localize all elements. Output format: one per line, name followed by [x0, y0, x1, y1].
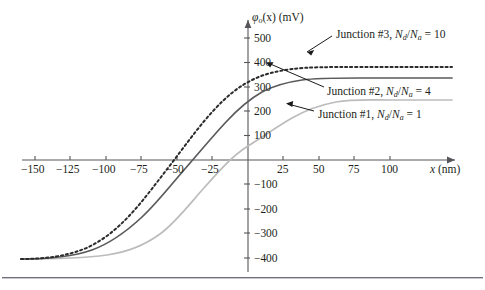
- x-axis-ticks: [35, 156, 390, 160]
- x-axis-unit: (nm): [438, 163, 460, 175]
- annotation-junction-2-nd: N: [386, 85, 394, 97]
- x-tick-label-100: 100: [381, 163, 398, 175]
- figure-container: −150 −125 −100 −75 −50 −25 25 50 75 100 …: [0, 0, 485, 290]
- x-tick-label-25: 25: [277, 163, 288, 175]
- annotation-junction-2-value: = 4: [413, 85, 431, 97]
- annotation-junction-2-na: N: [401, 85, 409, 97]
- annotation-junction-1-value: = 1: [404, 108, 422, 120]
- y-tick-label--400: −400: [254, 252, 277, 264]
- annotation-leaders: [266, 36, 332, 111]
- leader-junction-3: [307, 36, 332, 52]
- annotation-junction-1-na: N: [392, 108, 400, 120]
- x-tick-label-75: 75: [348, 163, 359, 175]
- y-tick-label-500: 500: [254, 32, 271, 44]
- arrowhead-junction-1: [286, 101, 293, 107]
- annotation-junction-1-prefix: Junction #1,: [318, 108, 377, 120]
- annotation-junction-3: Junction #3, Nd/Na = 10: [336, 28, 445, 42]
- x-tick-label--150: −150: [21, 163, 44, 175]
- annotation-junction-3-value: = 10: [422, 28, 446, 40]
- x-tick-label--25: −25: [201, 163, 219, 175]
- y-axis-arrowhead: [245, 20, 252, 28]
- axis-lines: [22, 20, 455, 272]
- annotation-junction-2-prefix: Junction #2,: [327, 85, 386, 97]
- annotation-junction-1-nd: N: [377, 108, 385, 120]
- y-tick-label-100: 100: [254, 129, 271, 141]
- y-tick-label--100: −100: [254, 178, 277, 190]
- x-axis-x-symbol: x: [430, 163, 435, 175]
- x-tick-label--125: −125: [56, 163, 79, 175]
- annotation-junction-3-prefix: Junction #3,: [336, 28, 395, 40]
- annotation-junction-1: Junction #1, Nd/Na = 1: [318, 108, 422, 122]
- y-axis-title: φo(x) (mV): [252, 11, 304, 25]
- chart-canvas: [0, 0, 485, 290]
- y-tick-label--200: −200: [254, 203, 277, 215]
- x-tick-label--100: −100: [92, 163, 115, 175]
- y-tick-label-200: 200: [254, 105, 271, 117]
- x-tick-label-50: 50: [313, 163, 324, 175]
- series-junction-1-curve: [21, 100, 452, 259]
- y-tick-label--300: −300: [254, 227, 277, 239]
- annotation-junction-2: Junction #2, Nd/Na = 4: [327, 85, 431, 99]
- y-axis-unit: (x) (mV): [262, 11, 303, 23]
- y-tick-label-400: 400: [254, 56, 271, 68]
- x-axis-title: x (nm): [430, 163, 460, 175]
- bottom-divider-shadow: [2, 278, 483, 279]
- x-tick-label--75: −75: [130, 163, 148, 175]
- annotation-junction-3-nd: N: [395, 28, 403, 40]
- annotation-junction-3-na: N: [410, 28, 418, 40]
- y-tick-label-300: 300: [254, 81, 271, 93]
- x-tick-label--50: −50: [166, 163, 184, 175]
